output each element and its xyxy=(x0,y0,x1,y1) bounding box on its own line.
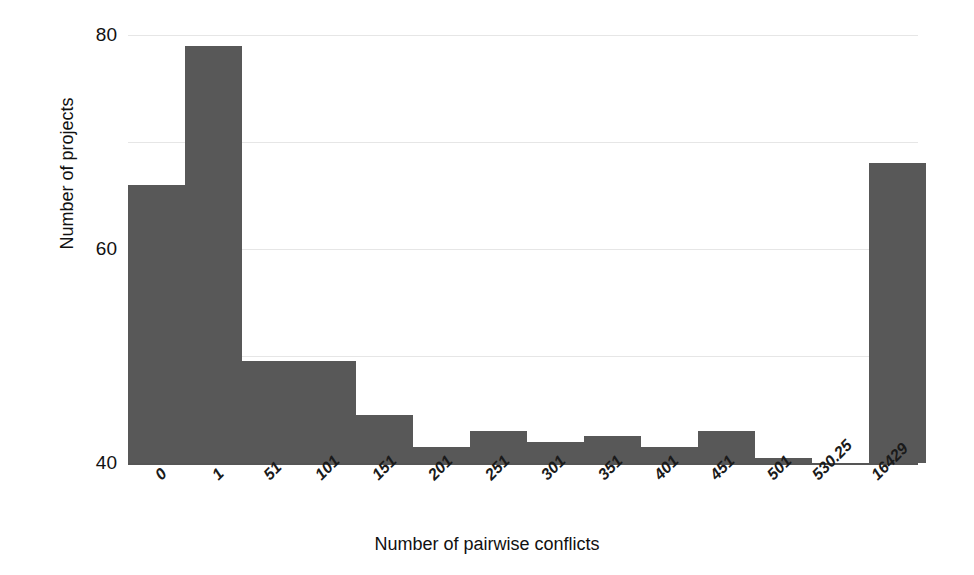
bar-slot xyxy=(242,35,299,463)
x-tick-slot: 501 xyxy=(749,467,805,522)
x-axis-tick-labels: 0151101151201251301351401451501530.25164… xyxy=(128,467,918,522)
bar-chart: Number of projects 020406080 01511011512… xyxy=(0,0,974,575)
x-tick-slot: 251 xyxy=(467,467,523,522)
bar[interactable] xyxy=(128,185,185,463)
x-tick-slot: 1 xyxy=(184,467,240,522)
bar-slot xyxy=(698,35,755,463)
x-tick-slot: 530.25 xyxy=(805,467,861,522)
x-axis-title: Number of pairwise conflicts xyxy=(0,534,974,555)
bar-slot xyxy=(755,35,812,463)
bar[interactable] xyxy=(869,163,926,463)
y-axis-tick-label: 40 xyxy=(96,452,117,474)
bar-slot xyxy=(356,35,413,463)
bar-slot xyxy=(128,35,185,463)
bar-slot xyxy=(869,35,926,463)
bar-slot xyxy=(185,35,242,463)
x-tick-slot: 201 xyxy=(410,467,466,522)
y-axis-tick-label: 80 xyxy=(96,24,117,46)
y-axis-tick-label: 60 xyxy=(96,238,117,260)
y-axis-title: Number of projects xyxy=(57,49,78,299)
x-axis-tick-label: 0 xyxy=(152,465,171,484)
plot-area: 020406080 xyxy=(128,35,918,463)
x-tick-slot: 301 xyxy=(523,467,579,522)
bar-slot xyxy=(527,35,584,463)
x-tick-slot: 151 xyxy=(354,467,410,522)
x-tick-slot: 451 xyxy=(692,467,748,522)
bar-slot xyxy=(470,35,527,463)
bar-slot xyxy=(641,35,698,463)
bar-slot xyxy=(812,35,869,463)
bar[interactable] xyxy=(299,361,356,463)
x-tick-slot: 351 xyxy=(579,467,635,522)
bar-slot xyxy=(584,35,641,463)
bar-slot xyxy=(299,35,356,463)
x-tick-slot: 0 xyxy=(128,467,184,522)
x-tick-slot: 51 xyxy=(241,467,297,522)
x-tick-slot: 401 xyxy=(636,467,692,522)
bar[interactable] xyxy=(185,46,242,463)
x-tick-slot: 101 xyxy=(297,467,353,522)
x-axis-tick-label: 1 xyxy=(208,465,227,484)
x-axis-line xyxy=(128,463,918,465)
bar[interactable] xyxy=(242,361,299,463)
bar-series xyxy=(128,35,918,463)
bar-slot xyxy=(413,35,470,463)
x-tick-slot: 16429 xyxy=(861,467,917,522)
